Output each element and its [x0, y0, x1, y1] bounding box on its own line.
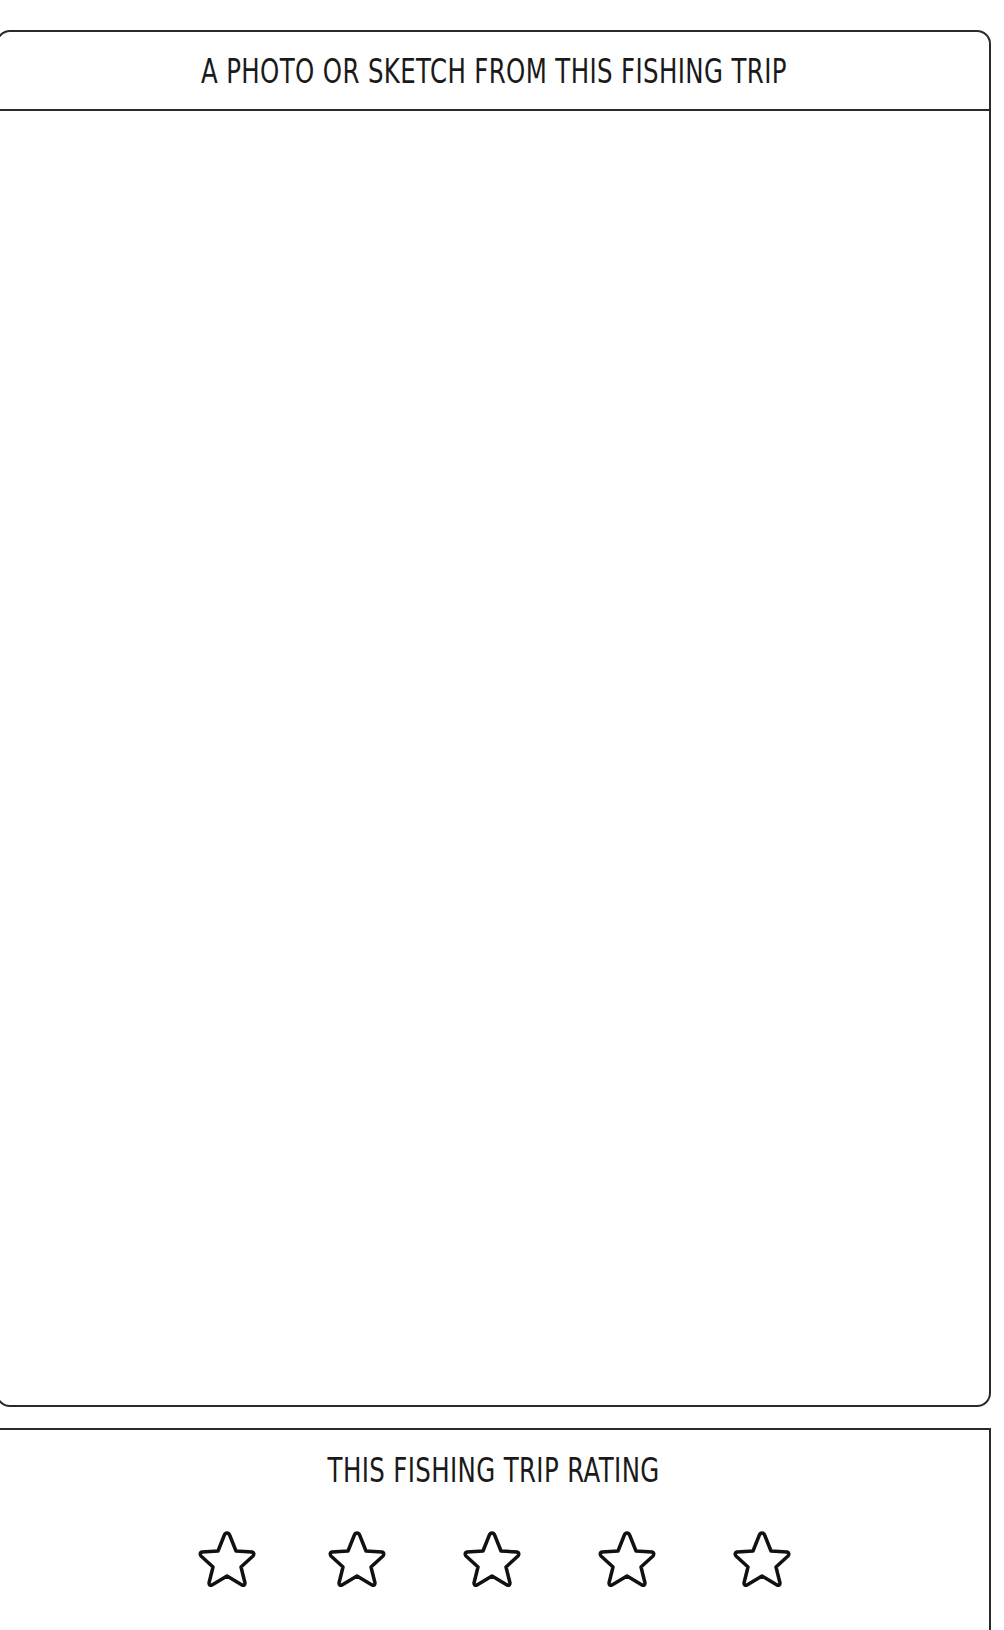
- star-outline-icon[interactable]: [327, 1530, 387, 1590]
- photo-box-title: A PHOTO OR SKETCH FROM THIS FISHING TRIP: [201, 51, 787, 91]
- rating-title-wrap: THIS FISHING TRIP RATING: [0, 1450, 989, 1490]
- trip-rating-box: THIS FISHING TRIP RATING: [0, 1428, 991, 1630]
- star-outline-icon[interactable]: [732, 1530, 792, 1590]
- photo-sketch-box: A PHOTO OR SKETCH FROM THIS FISHING TRIP: [0, 30, 991, 1407]
- star-outline-icon[interactable]: [197, 1530, 257, 1590]
- star-outline-icon[interactable]: [462, 1530, 522, 1590]
- photo-sketch-area[interactable]: [0, 111, 989, 1404]
- star-outline-icon[interactable]: [597, 1530, 657, 1590]
- rating-title: THIS FISHING TRIP RATING: [327, 1450, 659, 1490]
- photo-box-header: A PHOTO OR SKETCH FROM THIS FISHING TRIP: [0, 32, 989, 111]
